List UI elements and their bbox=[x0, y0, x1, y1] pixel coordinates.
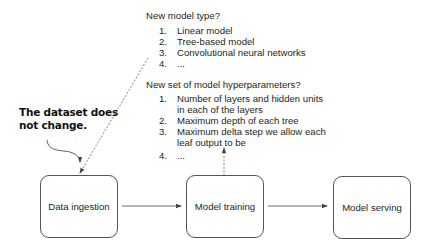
step-data-ingestion: Data ingestion bbox=[40, 175, 118, 238]
hyperparams-item-3: Maximum delta step we allow each bbox=[177, 126, 326, 137]
model-type-item-3: Convolutional neural networks bbox=[177, 47, 306, 58]
hyperparams-num-1: 1. bbox=[159, 93, 167, 104]
model-type-item-2: Tree-based model bbox=[177, 36, 255, 47]
model-type-num-4: 4. bbox=[159, 58, 167, 69]
hyperparams-item-1: Number of layers and hidden units bbox=[177, 93, 323, 104]
hyperparams-question: New set of model hyperparameters? bbox=[146, 79, 301, 90]
hyperparams-item-3-cont: leaf output to be bbox=[177, 137, 246, 148]
step-model-training: Model training bbox=[186, 175, 264, 238]
model-type-num-3: 3. bbox=[159, 47, 167, 58]
step-model-serving-label: Model serving bbox=[342, 202, 402, 213]
hyperparams-item-1-cont: in each of the layers bbox=[177, 104, 263, 115]
model-type-num-1: 1. bbox=[159, 25, 167, 36]
callout-line-2: not change. bbox=[19, 119, 87, 132]
model-type-item-4: ... bbox=[177, 58, 185, 69]
model-type-question: New model type? bbox=[146, 10, 220, 21]
hyperparams-num-2: 2. bbox=[159, 115, 167, 126]
hyperparams-item-2: Maximum depth of each tree bbox=[177, 115, 299, 126]
hyperparams-item-4: ... bbox=[177, 150, 185, 161]
model-type-num-2: 2. bbox=[159, 36, 167, 47]
callout-arrow bbox=[47, 140, 80, 162]
step-model-training-label: Model training bbox=[195, 201, 255, 212]
model-type-item-1: Linear model bbox=[177, 25, 232, 36]
step-model-serving: Model serving bbox=[333, 176, 411, 239]
step-data-ingestion-label: Data ingestion bbox=[48, 201, 109, 212]
hyperparams-num-4: 4. bbox=[159, 150, 167, 161]
callout-line-1: The dataset does bbox=[19, 106, 118, 119]
hyperparams-num-3: 3. bbox=[159, 126, 167, 137]
